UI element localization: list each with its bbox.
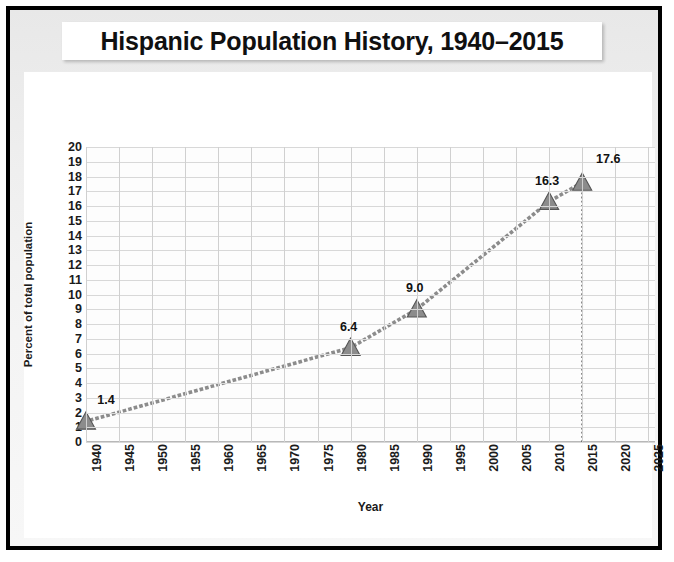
slide-canvas: Hispanic Population History, 1940–2015 P… [0,0,674,562]
y-tick-label: 18 [58,170,82,183]
y-tick-label: 17 [58,185,82,198]
gridline-horizontal [86,398,655,399]
x-tick-label: 2015 [587,444,600,472]
gridline-vertical [351,147,352,442]
x-tick-label: 1985 [389,444,402,472]
y-tick-label: 19 [58,156,82,169]
gridline-vertical [119,147,120,442]
data-point-label: 16.3 [535,174,559,188]
slide-frame: Hispanic Population History, 1940–2015 P… [6,6,662,550]
y-tick-label: 3 [58,392,82,405]
gridline-horizontal [86,250,655,251]
gridline-horizontal [86,427,655,428]
series-line [86,182,582,421]
data-point-label: 6.4 [340,320,357,334]
plot-area: 1.46.49.016.317.6 [86,147,655,442]
data-point-label: 17.6 [596,152,620,166]
y-tick-label: 0 [58,436,82,449]
x-tick-label: 2000 [488,444,501,472]
gridline-horizontal [86,413,655,414]
data-point-label: 1.4 [97,393,114,407]
y-tick-label: 16 [58,200,82,213]
gridline-vertical [384,147,385,442]
gridline-vertical [86,147,87,442]
x-tick-label: 1970 [289,444,302,472]
x-tick-label: 2020 [620,444,633,472]
x-tick-label: 1950 [157,444,170,472]
gridline-horizontal [86,309,655,310]
gridline-horizontal [86,265,655,266]
x-tick-label: 1975 [323,444,336,472]
gridline-horizontal [86,368,655,369]
y-tick-label: 7 [58,333,82,346]
gridline-horizontal [86,177,655,178]
gridline-horizontal [86,221,655,222]
title-banner: Hispanic Population History, 1940–2015 [62,22,602,60]
x-tick-label: 1940 [91,444,104,472]
chart-card: Percent of total population 012345678910… [24,72,652,538]
gridline-vertical [284,147,285,442]
y-tick-label: 12 [58,259,82,272]
gridline-vertical [218,147,219,442]
gridline-horizontal [86,147,655,148]
gridline-horizontal [86,191,655,192]
y-tick-label: 4 [58,377,82,390]
x-tick-label: 1965 [256,444,269,472]
gridline-horizontal [86,339,655,340]
x-tick-label: 2005 [521,444,534,472]
y-tick-label: 2 [58,406,82,419]
data-point-label: 9.0 [406,281,423,295]
y-tick-label: 15 [58,215,82,228]
y-tick-label: 20 [58,141,82,154]
gridline-vertical [450,147,451,442]
gridline-horizontal [86,280,655,281]
gridline-horizontal [86,324,655,325]
x-tick-label: 1955 [190,444,203,472]
y-tick-label: 10 [58,288,82,301]
x-tick-label: 1980 [356,444,369,472]
y-tick-label: 8 [58,318,82,331]
gridline-vertical [185,147,186,442]
gridline-horizontal [86,354,655,355]
x-axis-title: Year [86,500,655,514]
y-tick-label: 6 [58,347,82,360]
y-tick-label: 14 [58,229,82,242]
gridline-vertical [152,147,153,442]
x-tick-label: 1960 [223,444,236,472]
gridline-horizontal [86,295,655,296]
x-axis-ticks: 1940194519501955196019651970197519801985… [86,444,655,502]
gridline-vertical [318,147,319,442]
gridline-horizontal [86,162,655,163]
gridline-horizontal [86,383,655,384]
gridline-horizontal [86,442,655,443]
x-tick-label: 1990 [422,444,435,472]
gridline-horizontal [86,236,655,237]
gridline-vertical [483,147,484,442]
y-tick-label: 9 [58,303,82,316]
y-tick-label: 13 [58,244,82,257]
gridline-horizontal [86,206,655,207]
gridline-vertical [251,147,252,442]
y-axis-title: Percent of total population [22,147,40,442]
x-tick-label: 1945 [124,444,137,472]
y-axis-ticks: 01234567891011121314151617181920 [54,147,82,442]
page-title: Hispanic Population History, 1940–2015 [101,27,564,56]
y-tick-label: 5 [58,362,82,375]
gridline-vertical [648,147,649,442]
x-tick-label: 2025 [653,444,666,472]
x-tick-label: 2010 [554,444,567,472]
gridline-vertical [516,147,517,442]
gridline-vertical [582,147,583,442]
x-tick-label: 1995 [455,444,468,472]
y-tick-label: 11 [58,274,82,287]
gridline-vertical [549,147,550,442]
gridline-vertical [615,147,616,442]
